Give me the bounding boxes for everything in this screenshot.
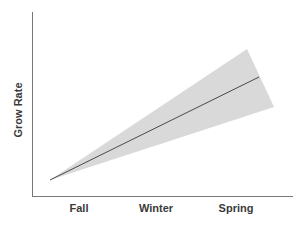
x-tick-fall: Fall — [70, 202, 89, 214]
x-tick-winter: Winter — [139, 202, 173, 214]
trend-line — [50, 77, 259, 180]
confidence-band — [50, 49, 274, 180]
x-tick-spring: Spring — [219, 202, 254, 214]
y-axis-label: Grow Rate — [12, 82, 24, 137]
chart-plot — [0, 0, 307, 229]
